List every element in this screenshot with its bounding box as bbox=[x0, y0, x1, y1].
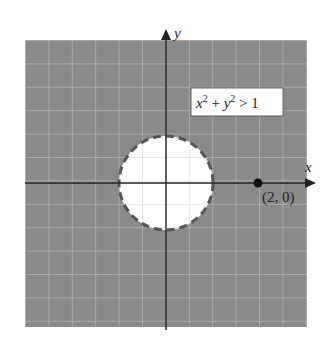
y-axis-arrow-icon bbox=[161, 29, 171, 40]
point-label: (2, 0) bbox=[262, 189, 295, 206]
graph: y x x2 + y2 > 1 (2, 0) bbox=[0, 0, 336, 347]
point-2-0 bbox=[254, 179, 263, 188]
x-axis-label: x bbox=[304, 159, 312, 175]
x-axis-arrow-icon bbox=[305, 178, 316, 188]
y-axis-label: y bbox=[172, 25, 181, 41]
